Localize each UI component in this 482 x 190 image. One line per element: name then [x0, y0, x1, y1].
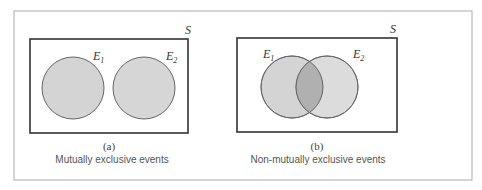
- panel-a: S E1 E2 (a) Mutually exclusive events: [30, 23, 191, 165]
- event-label-e2-b: E2: [352, 47, 364, 63]
- event-label-e1-a: E1: [92, 49, 104, 65]
- event-label-e1-b: E1: [262, 47, 274, 63]
- universe-label-a: S: [185, 23, 191, 37]
- panel-label-b: (b): [311, 140, 324, 153]
- event-circle-e2-a: [113, 57, 175, 119]
- venn-figure: S E1 E2 (a) Mutually exclusive events S …: [0, 0, 482, 190]
- event-label-e2-a: E2: [165, 49, 177, 65]
- universe-label-b: S: [390, 22, 396, 36]
- panel-label-a: (a): [103, 140, 116, 153]
- event-circle-e1-a: [42, 57, 104, 119]
- caption-b: Non-mutually exclusive events: [250, 154, 385, 165]
- panel-b: S E1 E2 (b) Non-mutually exclusive event…: [237, 22, 397, 165]
- caption-a: Mutually exclusive events: [55, 154, 168, 165]
